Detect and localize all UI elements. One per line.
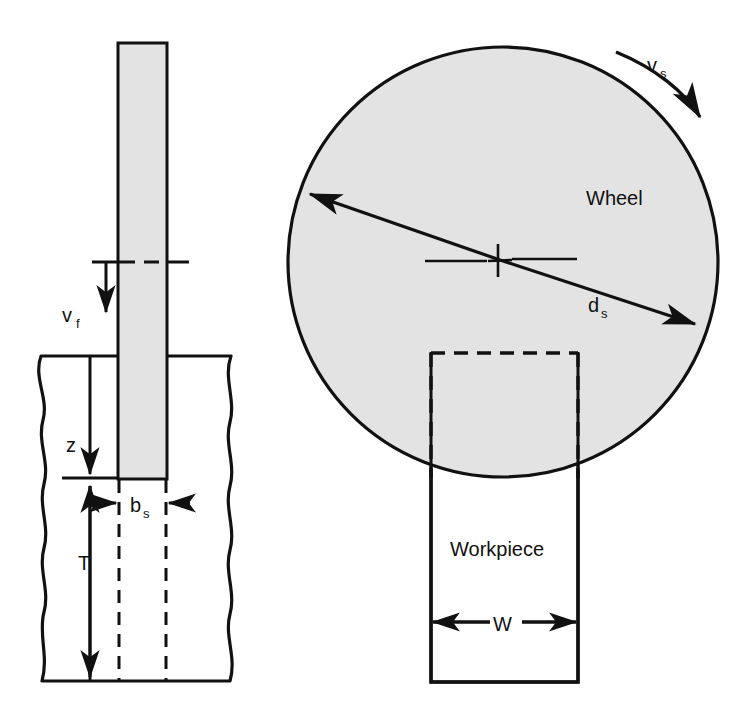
wheel-text-label: Wheel [586,187,643,209]
feed-velocity-sublabel: f [76,316,80,331]
workpiece-fill [433,480,576,680]
surface-speed-label: v [647,54,657,76]
surface-speed-sublabel: s [660,66,667,81]
wheel-width-label: b [130,494,141,516]
wheel-width-sublabel: s [143,506,150,521]
workpiece-width-label: W [493,613,512,635]
workpiece-text-label: Workpiece [450,538,544,560]
depth-label: z [66,434,76,456]
feed-velocity-label: v [62,304,72,326]
diameter-label: d [588,294,599,316]
diameter-sublabel: s [601,306,608,321]
figure-canvas: v f z T b s [0,0,744,706]
grinding-diagram-svg: v f z T b s [0,0,744,706]
thickness-label: T [78,552,90,574]
